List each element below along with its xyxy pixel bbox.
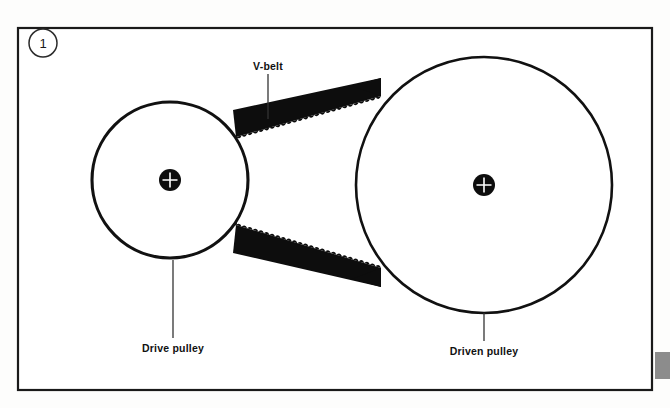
driven-pulley[interactable] — [356, 57, 612, 313]
drive-pulley[interactable] — [92, 102, 248, 258]
figure-number-badge: 1 — [29, 29, 57, 57]
v-belt-label: V-belt — [253, 60, 283, 72]
pulley-belt-diagram: V-belt Drive pulley Driven pulley 1 — [0, 0, 670, 408]
page-side-tab — [655, 352, 670, 379]
figure-badge-number: 1 — [39, 36, 46, 51]
figure-container: V-belt Drive pulley Driven pulley 1 — [0, 0, 670, 408]
drive-pulley-label: Drive pulley — [142, 342, 204, 354]
driven-pulley-label: Driven pulley — [450, 345, 519, 357]
